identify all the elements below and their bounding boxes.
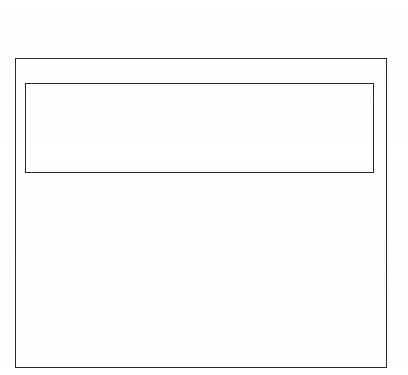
outer-frame-rectangle (15, 58, 387, 368)
inner-banner-label (26, 84, 373, 172)
inner-banner-rectangle (25, 83, 374, 173)
lower-empty-region (25, 179, 374, 361)
diagram-canvas (0, 0, 408, 375)
lower-region-label (25, 179, 374, 361)
